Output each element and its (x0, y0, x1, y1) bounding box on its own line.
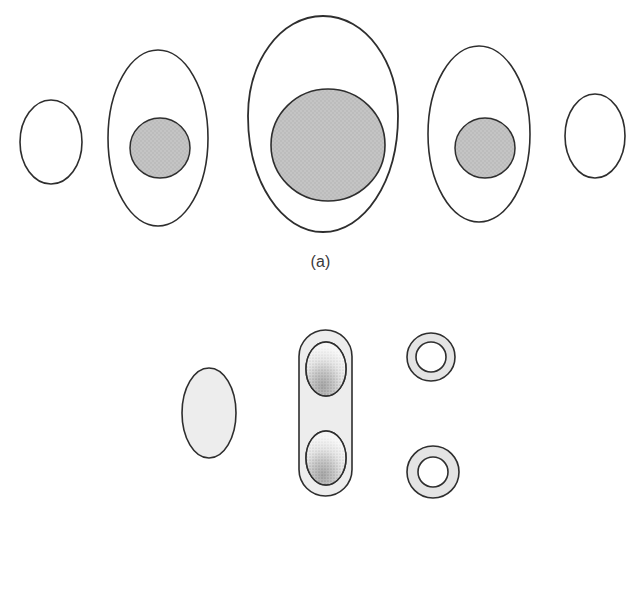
cell-stage-5-empty-oval (565, 94, 625, 178)
cell-membrane-outline (20, 100, 82, 184)
ring-form-lower (407, 446, 459, 498)
spore-solid-ellipse (182, 368, 236, 458)
cell-nucleus (130, 118, 190, 178)
cell-stage-2-nucleated-oval (108, 50, 208, 226)
spore-outline (182, 368, 236, 458)
panel-a-caption: (a) (0, 253, 641, 271)
cell-membrane-outline (565, 94, 625, 178)
figure-root: (a) (0, 0, 641, 591)
ring-form-upper (407, 333, 455, 381)
cell-stage-1-empty-oval (20, 100, 82, 184)
ring-inner-edge (418, 457, 448, 487)
panel-b: (b) (0, 300, 641, 591)
cell-nucleus (271, 89, 385, 201)
panel-b-illustration (0, 300, 641, 591)
cell-stage-3-large-egg (248, 16, 398, 232)
panel-a: (a) (0, 0, 641, 300)
cell-stage-4-nucleated-oval (428, 46, 530, 222)
cell-nucleus (455, 118, 515, 178)
capsule-with-two-spores (299, 330, 356, 496)
ring-inner-edge (416, 342, 446, 372)
